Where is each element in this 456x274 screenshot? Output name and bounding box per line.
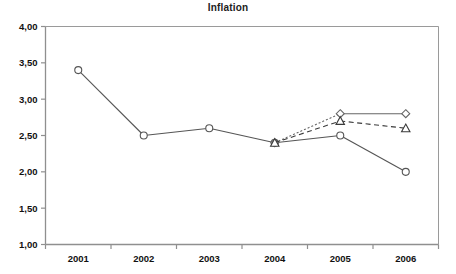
x-tick-label: 2001 [68,253,90,264]
data-point-circle [337,132,344,139]
series-line-segment [340,136,406,172]
data-point-circle [402,168,409,175]
y-tick-label: 2,00 [19,166,38,177]
data-point-circle [140,132,147,139]
series-line-segment [340,121,406,128]
y-tick-label: 1,50 [19,203,38,214]
y-tick-label: 3,50 [19,57,38,68]
data-point-circle [206,125,213,132]
series-actual [75,67,410,176]
x-axis-ticks [46,245,439,250]
y-tick-label: 2,50 [19,130,38,141]
data-point-triangle [336,117,344,125]
series-line-segment [144,128,210,135]
series-line-segment [275,114,341,143]
chart-plot-area: 1,001,502,002,503,003,504,00 20012002200… [0,0,456,274]
y-tick-label: 1,00 [19,239,38,250]
x-tick-label: 2003 [199,253,220,264]
series-line-segment [78,70,144,135]
y-axis-ticks [41,27,46,245]
y-tick-label: 4,00 [19,21,38,32]
y-axis-tick-labels: 1,001,502,002,503,003,504,00 [19,21,38,250]
series-line-segment [209,128,275,143]
data-point-diamond [402,110,410,118]
x-axis-tick-labels: 200120022003200420052006 [68,253,417,264]
data-series-layer [75,67,410,176]
data-point-circle [75,67,82,74]
inflation-chart: Inflation 1,001,502,002,503,003,504,00 2… [0,0,456,274]
x-tick-label: 2005 [330,253,352,264]
x-tick-label: 2006 [395,253,416,264]
x-tick-label: 2004 [264,253,286,264]
y-tick-label: 3,00 [19,94,38,105]
x-tick-label: 2002 [133,253,154,264]
